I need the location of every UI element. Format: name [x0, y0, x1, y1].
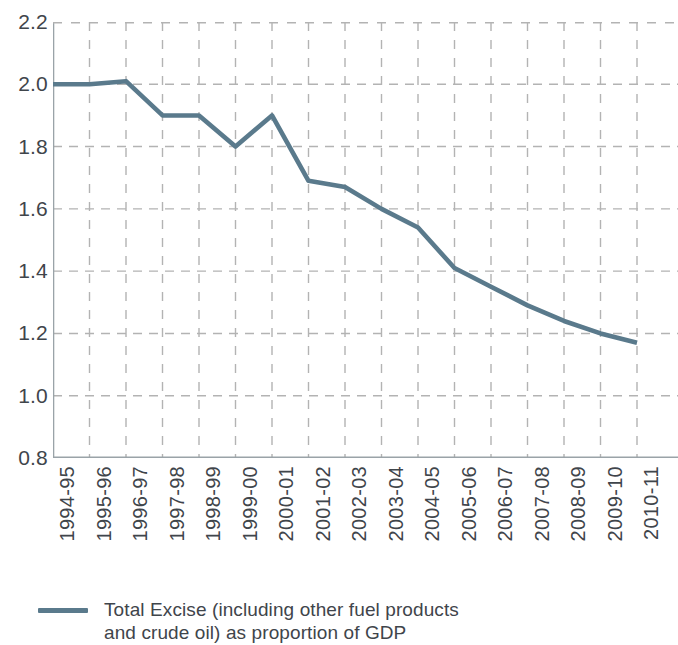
legend-label: Total Excise (including other fuel produ…	[104, 598, 459, 644]
x-axis-tick-label: 2007-08	[532, 466, 552, 542]
x-axis-tick-label: 2000-01	[276, 466, 296, 542]
x-axis-tick-label: 1998-99	[203, 466, 223, 542]
x-axis-tick-label: 2003-04	[386, 466, 406, 542]
x-axis-tick-label: 1996-97	[130, 466, 150, 542]
legend-color-swatch	[38, 608, 88, 613]
x-axis-tick-label: 1995-96	[94, 466, 114, 542]
x-axis-tick-label: 2004-05	[422, 466, 442, 542]
x-axis-tick-label: 1994-95	[57, 466, 77, 542]
x-axis-tick-label: 2010-11	[641, 466, 661, 540]
x-axis-tick-label: 2009-10	[605, 466, 625, 542]
x-axis-tick-label: 1999-00	[240, 466, 260, 542]
x-axis-tick-label: 2006-07	[495, 466, 515, 542]
x-axis-tick-label: 2002-03	[349, 466, 369, 542]
x-axis-tick-label: 2001-02	[313, 466, 333, 542]
x-axis-tick-label: 1997-98	[167, 466, 187, 542]
x-axis-tick-label: 2008-09	[568, 466, 588, 542]
x-axis-tick-label: 2005-06	[459, 466, 479, 542]
excise-gdp-line-chart: 2.22.01.81.61.41.21.00.8 1994-951995-961…	[0, 0, 678, 645]
x-axis-labels: 1994-951995-961996-971997-981998-991999-…	[0, 0, 678, 645]
chart-legend: Total Excise (including other fuel produ…	[38, 598, 459, 644]
